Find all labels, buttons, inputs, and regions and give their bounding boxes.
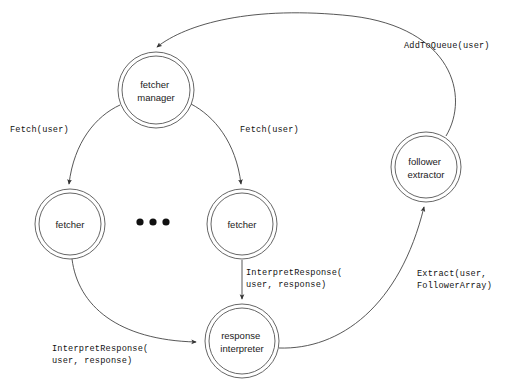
flow-diagram: AddToQueue(user) Fetch(user) Fetch(user)… — [0, 0, 507, 386]
node-fetcher-left-label: fetcher — [55, 219, 84, 230]
ellipsis-dot — [162, 218, 169, 225]
edge-fetch-right-path — [191, 104, 241, 184]
edge-fetch-left: Fetch(user) — [10, 105, 120, 184]
edge-interpret-left-label: InterpretResponse( user, response) — [52, 344, 154, 366]
edge-fetch-left-label: Fetch(user) — [10, 125, 69, 135]
edge-fetch-left-path — [69, 105, 120, 184]
ellipsis-indicator — [136, 218, 169, 225]
ellipsis-dot — [149, 218, 156, 225]
node-fetcher-left[interactable]: fetcher — [35, 189, 105, 259]
ellipsis-dot — [136, 218, 143, 225]
diagram-canvas: AddToQueue(user) Fetch(user) Fetch(user)… — [0, 0, 507, 386]
edge-extract-label: Extract(user, FollowerArray) — [417, 269, 492, 291]
edge-interpret-right-label: InterpretResponse( user, response) — [246, 268, 348, 290]
node-fetcher-manager[interactable]: fetcher manager — [118, 52, 194, 128]
edge-add-to-queue: AddToQueue(user) — [157, 13, 490, 136]
node-fetcher-right[interactable]: fetcher — [207, 189, 277, 259]
edge-interpret-right: InterpretResponse( user, response) — [242, 260, 348, 299]
edge-add-to-queue-label: AddToQueue(user) — [404, 41, 490, 51]
edge-interpret-left: InterpretResponse( user, response) — [52, 259, 196, 366]
node-fetcher-right-label: fetcher — [227, 219, 256, 230]
node-inner-ring — [122, 56, 190, 124]
node-follower-extractor[interactable]: follower extractor — [391, 132, 461, 202]
edge-add-to-queue-path — [157, 13, 456, 136]
edge-fetch-right: Fetch(user) — [191, 104, 299, 184]
node-inner-ring — [209, 308, 275, 374]
node-inner-ring — [395, 136, 457, 198]
edge-fetch-right-label: Fetch(user) — [240, 125, 299, 135]
edge-interpret-left-path — [72, 259, 196, 342]
node-response-interpreter[interactable]: response interpreter — [205, 304, 279, 378]
